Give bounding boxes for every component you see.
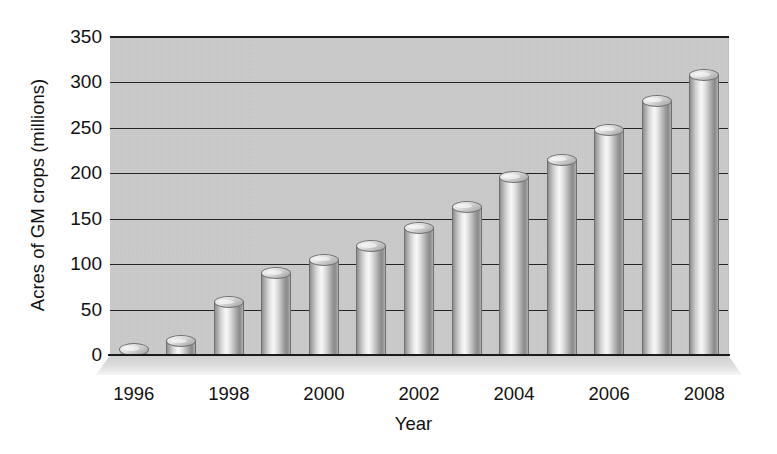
bar-2000 xyxy=(309,260,339,355)
y-tick-label-300: 300 xyxy=(56,72,102,91)
bar-body xyxy=(594,130,624,355)
bar-body xyxy=(689,75,719,355)
gridline-200 xyxy=(110,173,728,174)
bar-top-cap xyxy=(499,171,529,183)
plot-area xyxy=(110,37,728,355)
y-tick-label-0: 0 xyxy=(56,345,102,364)
gridline-250 xyxy=(110,128,728,129)
x-tick-label-2006: 2006 xyxy=(569,383,649,405)
bar-body xyxy=(452,207,482,355)
y-tick-label-150: 150 xyxy=(56,209,102,228)
bar-body xyxy=(642,101,672,355)
x-axis-baseline xyxy=(108,354,730,356)
bar-body xyxy=(356,246,386,355)
gridline-300 xyxy=(110,82,728,83)
bar-2006 xyxy=(594,130,624,355)
x-tick-label-2000: 2000 xyxy=(284,383,364,405)
x-tick-label-1996: 1996 xyxy=(94,383,174,405)
y-tick-label-50: 50 xyxy=(56,300,102,319)
y-tick-label-100: 100 xyxy=(56,254,102,273)
bar-body xyxy=(309,260,339,355)
bar-top-cap xyxy=(404,222,434,234)
chart-root: Acres of GM crops (millions) 05010015020… xyxy=(0,0,777,454)
plot-top-border xyxy=(110,36,729,38)
bar-top-cap xyxy=(309,254,339,266)
y-tick-label-200: 200 xyxy=(56,163,102,182)
bar-1998 xyxy=(214,302,244,355)
bar-2007 xyxy=(642,101,672,355)
bar-2002 xyxy=(404,228,434,355)
y-tick-label-350: 350 xyxy=(56,27,102,46)
bar-1999 xyxy=(261,273,291,355)
bar-body xyxy=(547,160,577,355)
bar-body xyxy=(214,302,244,355)
bar-2005 xyxy=(547,160,577,355)
bar-top-cap xyxy=(642,95,672,107)
x-tick-label-1998: 1998 xyxy=(189,383,269,405)
y-tick-label-250: 250 xyxy=(56,118,102,137)
bar-top-cap xyxy=(594,124,624,136)
bar-top-cap xyxy=(452,201,482,213)
plot-floor-3d xyxy=(96,355,742,377)
bar-body xyxy=(261,273,291,355)
bar-2003 xyxy=(452,207,482,355)
y-axis-title: Acres of GM crops (millions) xyxy=(27,30,49,360)
x-tick-label-2004: 2004 xyxy=(474,383,554,405)
bar-2008 xyxy=(689,75,719,355)
bar-2004 xyxy=(499,177,529,355)
x-tick-label-2008: 2008 xyxy=(664,383,744,405)
plot-right-border xyxy=(728,37,729,355)
gridline-150 xyxy=(110,219,728,220)
x-tick-label-2002: 2002 xyxy=(379,383,459,405)
x-axis-title: Year xyxy=(0,413,777,435)
bar-top-cap xyxy=(547,154,577,166)
bar-body xyxy=(499,177,529,355)
bar-2001 xyxy=(356,246,386,355)
x-axis-title-text: Year xyxy=(395,413,432,435)
bar-1997 xyxy=(166,341,196,355)
bar-body xyxy=(404,228,434,355)
